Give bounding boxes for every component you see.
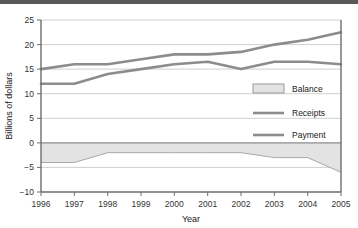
y-tick-label: 20	[25, 40, 35, 50]
y-tick-label: 15	[25, 64, 35, 74]
x-tick-label: 2004	[298, 199, 317, 209]
x-tick-label: 2005	[332, 199, 351, 209]
legend-label-receipts: Receipts	[292, 108, 325, 118]
x-tick-label: 2002	[232, 199, 251, 209]
y-tick-label: 5	[29, 113, 34, 123]
x-tick-label: 1997	[65, 199, 84, 209]
x-tick-labels: 1996 1997 1998 1999 2000 2001 2002 2003 …	[32, 199, 351, 209]
legend-swatch-balance	[253, 84, 284, 93]
x-tick-label: 1998	[98, 199, 117, 209]
y-tick-label: −5	[24, 162, 34, 172]
y-tick-label: −10	[20, 187, 35, 197]
legend: Balance Receipts Payment	[253, 84, 326, 140]
x-tick-label: 1996	[32, 199, 51, 209]
x-tick-label: 1999	[132, 199, 151, 209]
y-tick-labels: 25 20 15 10 5 0 −5 −10	[20, 15, 35, 197]
x-tick-label: 2000	[165, 199, 184, 209]
x-tick-label: 2001	[198, 199, 217, 209]
y-axis-title: Billions of dollars	[4, 72, 14, 140]
chart-figure: 25 20 15 10 5 0 −5 −10 1996 1997 1998	[0, 0, 358, 228]
legend-label-balance: Balance	[292, 84, 323, 94]
legend-label-payment: Payment	[292, 130, 326, 140]
y-tick-label: 0	[29, 138, 34, 148]
line-area-chart: 25 20 15 10 5 0 −5 −10 1996 1997 1998	[0, 0, 358, 228]
y-tick-label: 25	[25, 15, 35, 25]
y-tick-label: 10	[25, 89, 35, 99]
x-axis-title: Year	[182, 214, 200, 224]
x-tick-label: 2003	[265, 199, 284, 209]
